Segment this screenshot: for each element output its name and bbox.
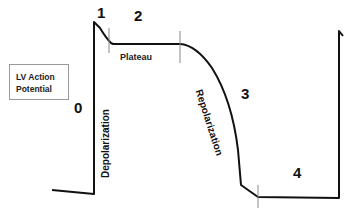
- depolarization-label: Depolarization: [100, 109, 111, 178]
- label-line-2: Potential: [16, 83, 68, 95]
- phase-4-label: 4: [293, 165, 301, 180]
- lv-action-potential-label: LV Action Potential: [9, 64, 69, 100]
- label-line-1: LV Action: [16, 71, 68, 83]
- phase-2-label: 2: [134, 8, 142, 23]
- phase-1-label: 1: [97, 5, 105, 20]
- phase-0-label: 0: [74, 100, 82, 115]
- plateau-label: Plateau: [120, 52, 152, 62]
- action-potential-curve: [0, 0, 352, 215]
- phase-3-label: 3: [241, 86, 249, 101]
